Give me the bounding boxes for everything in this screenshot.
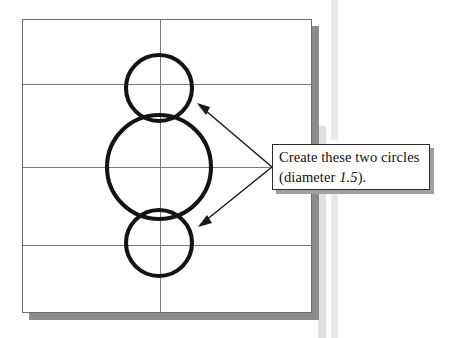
center-large-circle (107, 115, 211, 219)
callout-line-2-prefix: (diameter (279, 169, 339, 185)
callout-box: Create these two circles (diameter 1.5). (272, 144, 430, 190)
callout-diameter-value: 1.5 (339, 169, 357, 185)
figure-canvas: Create these two circles (diameter 1.5). (0, 0, 455, 338)
top-small-circle (126, 55, 192, 121)
callout-line-2-suffix: ). (358, 169, 367, 185)
callout-line-1: Create these two circles (279, 147, 429, 167)
callout-line-2: (diameter 1.5). (279, 167, 429, 187)
